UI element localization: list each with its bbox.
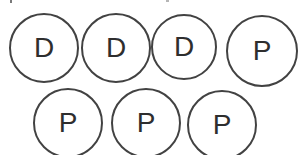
circle-label: P <box>213 111 232 139</box>
circle-bottom-3-p: P <box>187 90 257 155</box>
circle-label: P <box>137 109 156 137</box>
circles-diagram: D D D P P P P <box>0 0 301 155</box>
circle-bottom-2-p: P <box>111 88 181 155</box>
circle-top-2-d: D <box>81 13 151 83</box>
cropped-text-remnant <box>10 0 12 3</box>
cropped-text-remnant <box>166 0 169 2</box>
circle-bottom-1-p: P <box>33 88 103 155</box>
circle-label: D <box>174 33 194 61</box>
circle-label: P <box>253 37 272 65</box>
circle-top-3-d: D <box>151 14 217 80</box>
circle-label: D <box>34 34 54 62</box>
circle-label: P <box>59 109 78 137</box>
circle-label: D <box>106 34 126 62</box>
circle-top-1-d: D <box>9 13 79 83</box>
circle-top-4-p: P <box>226 15 298 87</box>
